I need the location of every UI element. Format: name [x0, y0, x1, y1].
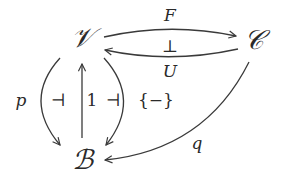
node-C: 𝒞 — [244, 24, 271, 55]
label-1: 1 — [87, 90, 98, 110]
label-q: q — [192, 133, 203, 153]
label-p: p — [16, 90, 27, 110]
node-V: 𝒱 — [71, 22, 102, 53]
diagram-canvas: 𝒱 𝒞 ℬ F U p 1 {−} q ⊥ ⊣ ⊣ — [0, 0, 285, 183]
label-F: F — [163, 5, 177, 25]
adjunction-perp-F-U: ⊥ — [162, 36, 178, 56]
label-singleton: {−} — [138, 90, 174, 110]
node-B: ℬ — [72, 144, 95, 175]
adjunction-turnstile-p-1: ⊣ — [51, 90, 66, 110]
label-U: U — [163, 61, 178, 81]
adjunction-turnstile-1-singleton: ⊣ — [106, 90, 121, 110]
